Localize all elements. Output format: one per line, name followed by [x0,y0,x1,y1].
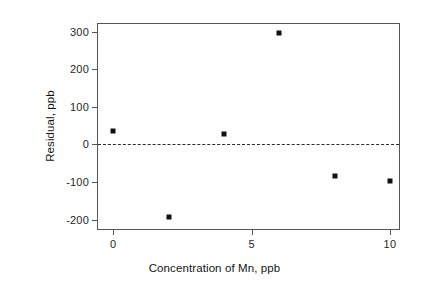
data-point-marker [166,214,171,219]
plot-area: -200-10001002003000510 [97,23,400,230]
x-axis-tick [390,229,391,235]
y-axis-tick [92,220,98,221]
x-axis-label: Concentration of Mn, ppb [0,262,429,274]
y-axis-tick [92,32,98,33]
y-axis-tick [92,69,98,70]
data-point-marker [111,128,116,133]
y-axis-tick [92,182,98,183]
y-axis-tick-label: 300 [70,26,89,38]
y-axis-tick [92,107,98,108]
data-point-marker [332,174,337,179]
x-axis-tick [113,229,114,235]
y-axis-tick-label: -100 [66,176,89,188]
y-axis-label: Residual, ppb [44,90,56,162]
y-axis-tick-label: 0 [83,138,89,150]
y-axis-tick-label: 100 [70,101,89,113]
data-point-marker [387,178,392,183]
y-axis-tick-label: -200 [66,214,89,226]
y-axis-tick [92,144,98,145]
x-axis-tick [252,229,253,235]
x-axis-tick-label: 5 [248,238,254,250]
data-point-marker [277,30,282,35]
residual-plot-figure: -200-10001002003000510 Concentration of … [0,0,429,291]
x-axis-tick-label: 10 [384,238,397,250]
data-point-marker [221,131,226,136]
zero-reference-line [98,144,399,145]
x-axis-tick-label: 0 [110,238,116,250]
y-axis-tick-label: 200 [70,63,89,75]
